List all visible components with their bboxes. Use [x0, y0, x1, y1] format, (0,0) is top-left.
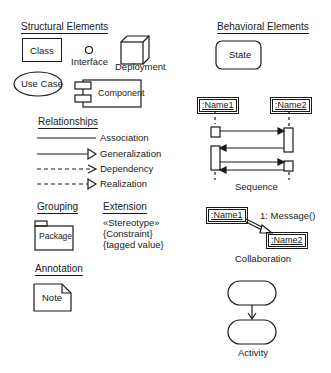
grouping-heading: Grouping [37, 202, 78, 214]
deployment-label: Deployment [115, 62, 166, 72]
sequence-caption: Sequence [235, 182, 278, 192]
activation-box [211, 146, 220, 170]
realization-label: Realization [100, 179, 147, 189]
stereotype-text: «Stereotype» [103, 218, 160, 228]
extension-heading: Extension [103, 202, 147, 214]
activation-box [211, 127, 220, 137]
use-case-label: Use Case [21, 79, 63, 89]
activity-node [228, 320, 276, 344]
relationships-heading: Relationships [38, 117, 98, 129]
collaboration-object-1: :Name1 [208, 209, 246, 222]
state-label: State [229, 50, 251, 60]
deployment-node-icon [121, 36, 149, 64]
sequence-object-1: :Name1 [199, 99, 237, 112]
activity-node [228, 281, 276, 305]
interface-icon [86, 47, 93, 54]
constraint-text: {Constraint} [103, 229, 153, 239]
annotation-heading: Annotation [35, 264, 83, 276]
package-label: Package [39, 232, 72, 241]
collaboration-message: 1: Message() [260, 211, 315, 221]
sequence-object-2: :Name2 [272, 99, 310, 112]
generalization-label: Generalization [100, 149, 161, 159]
note-label: Note [42, 293, 62, 303]
activation-box [284, 161, 293, 171]
dependency-label: Dependency [100, 164, 153, 174]
realization-head [88, 179, 96, 189]
tagged-value-text: {tagged value} [103, 240, 164, 250]
association-label: Association [100, 133, 149, 143]
collaboration-caption: Collaboration [235, 254, 291, 264]
collaboration-object-2: :Name2 [268, 234, 306, 247]
class-box: Class [22, 38, 62, 62]
generalization-head [88, 149, 96, 159]
structural-elements-heading: Structural Elements [21, 22, 108, 34]
activation-box [284, 128, 293, 152]
behavioral-elements-heading: Behavioral Elements [217, 22, 309, 34]
component-label: Component [98, 89, 145, 98]
interface-label: Interface [71, 57, 108, 67]
activity-caption: Activity [238, 348, 268, 358]
